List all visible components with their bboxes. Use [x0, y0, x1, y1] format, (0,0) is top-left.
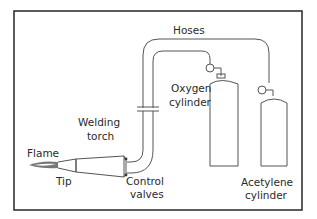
label-flame: Flame [27, 147, 59, 159]
label-tip: Tip [55, 175, 72, 187]
label-control: Control [126, 175, 164, 187]
label-hoses: Hoses [173, 24, 205, 36]
label-valves: valves [130, 188, 164, 200]
label-welding: Welding [78, 116, 120, 128]
label-acetylene: Acetylene [241, 176, 293, 188]
label-torch: torch [87, 130, 114, 142]
welding-diagram: Hoses Oxygen cylinder Acetylene cylinder… [0, 0, 317, 219]
label-acetylene-cylinder: cylinder [245, 189, 288, 201]
label-oxygen: Oxygen [171, 82, 211, 94]
control-valve-top [125, 158, 128, 161]
label-oxygen-cylinder: cylinder [169, 96, 212, 108]
